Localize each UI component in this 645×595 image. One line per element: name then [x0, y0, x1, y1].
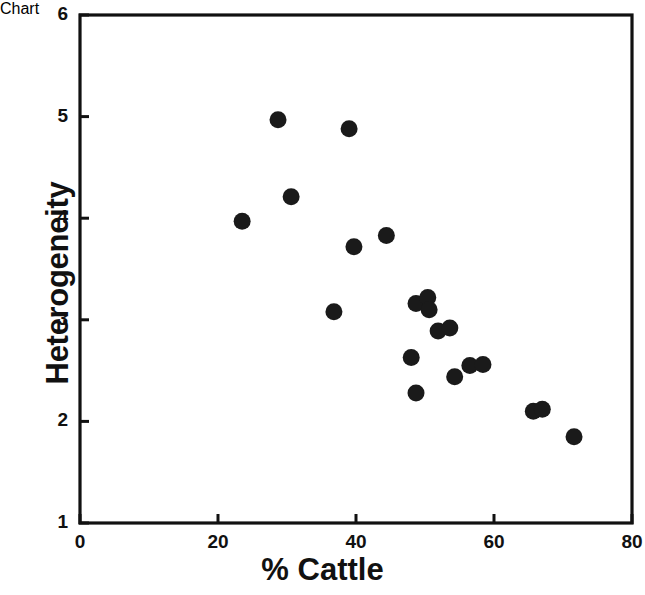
x-tick-label: 60: [464, 531, 524, 553]
data-point: [566, 428, 583, 445]
x-tick-label: 80: [602, 531, 645, 553]
x-tick-label: 0: [50, 531, 110, 553]
plot-canvas: [0, 0, 645, 595]
data-point: [403, 349, 420, 366]
data-point: [446, 368, 463, 385]
y-tick-label: 1: [38, 511, 68, 533]
y-tick-label: 4: [38, 206, 68, 228]
data-point: [283, 188, 300, 205]
data-point: [270, 111, 287, 128]
data-point: [378, 227, 395, 244]
scatter-plot-figure: Heterogeneity % Cattle 123456020406080: [0, 0, 645, 595]
plot-frame: [80, 15, 632, 523]
data-point: [341, 120, 358, 137]
data-point: [534, 401, 551, 418]
x-tick-label: 40: [326, 531, 386, 553]
data-point: [408, 384, 425, 401]
y-tick-label: 6: [38, 3, 68, 25]
x-tick-label: 20: [188, 531, 248, 553]
y-tick-label: 3: [38, 308, 68, 330]
data-point: [421, 301, 438, 318]
y-tick-label: 2: [38, 409, 68, 431]
data-point: [234, 213, 251, 230]
data-point: [325, 303, 342, 320]
data-point: [441, 319, 458, 336]
y-tick-label: 5: [38, 105, 68, 127]
data-point: [474, 356, 491, 373]
data-point: [345, 238, 362, 255]
